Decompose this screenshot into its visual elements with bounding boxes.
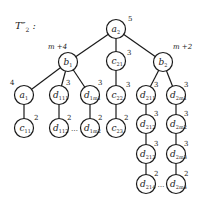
node-weight: 3: [184, 140, 188, 148]
title-main: T″: [15, 20, 26, 31]
node-weight: 2: [124, 114, 128, 122]
node-d1m2: d1m22: [81, 114, 103, 138]
node-d112: d1122: [50, 114, 72, 138]
node-d2m1: d2m13: [167, 81, 189, 105]
node-c22: c223: [107, 81, 131, 105]
node-label-subscript: 2m1: [176, 95, 187, 101]
node-weight: 3: [66, 79, 70, 87]
node-label-subscript: 213: [146, 154, 156, 160]
node-d214: d2142: [137, 170, 159, 194]
node-c23: c232: [107, 114, 129, 138]
ellipsis-dots: …: [158, 181, 165, 189]
node-label-subscript: 21: [117, 61, 123, 67]
node-weight: 3: [126, 81, 130, 89]
node-weight: 3: [184, 110, 188, 118]
node-d111: d1113: [50, 79, 71, 105]
node-label-subscript: 2: [117, 29, 120, 35]
node-label-subscript: 112: [59, 128, 69, 134]
node-label-subscript: 22: [117, 95, 123, 101]
node-label-subscript: 1: [69, 62, 72, 68]
node-weight: 2: [184, 170, 188, 178]
node-weight: 2: [34, 114, 38, 122]
node-weight: m +2: [173, 43, 193, 51]
node-label-subscript: 214: [146, 184, 156, 190]
node-label-subscript: 2m2: [176, 124, 187, 130]
node-label-subscript: 1: [25, 95, 28, 101]
title-suffix: :: [29, 20, 36, 31]
node-label-subscript: 23: [117, 128, 123, 134]
node-label-subscript: 2m4: [176, 184, 187, 190]
node-weight: 3: [184, 81, 188, 89]
node-weight: m +4: [48, 43, 67, 51]
node-d2m2: d2m23: [167, 110, 189, 134]
node-weight: 2: [67, 114, 71, 122]
nodes: a25b1m +4c213b2m +2a14d1113d1m13c223c112…: [10, 15, 193, 194]
diagram-title: T″2 :: [15, 20, 36, 33]
node-d211: d2113: [137, 81, 159, 105]
node-a1: a14: [10, 79, 34, 105]
node-d213: d2133: [137, 140, 159, 164]
node-weight: 5: [128, 15, 132, 23]
tree-diagram: T″2 : a25b1m +4c213b2m +2a14d1113d1m13c2…: [0, 0, 200, 205]
node-label-subscript: 111: [59, 95, 69, 101]
node-weight: 3: [154, 81, 158, 89]
node-weight: 2: [154, 170, 158, 178]
node-label-subscript: 212: [146, 124, 156, 130]
node-c11: c112: [15, 114, 39, 138]
node-label-subscript: 1m1: [90, 95, 101, 101]
node-label-subscript: 11: [25, 128, 31, 134]
node-d2m3: d2m33: [167, 140, 189, 164]
node-label-subscript: 1m2: [90, 128, 101, 134]
node-weight: 4: [10, 79, 15, 87]
node-weight: 3: [154, 140, 158, 148]
node-label-subscript: 211: [146, 95, 156, 101]
node-d1m1: d1m13: [81, 79, 103, 105]
node-weight: 3: [154, 110, 158, 118]
node-c21: c213: [107, 49, 132, 71]
node-d212: d2123: [137, 110, 159, 134]
ellipsis-dots: …: [71, 125, 78, 133]
node-b2: b2m +2: [154, 43, 193, 72]
node-weight: 3: [98, 79, 102, 87]
node-a2: a25: [107, 15, 133, 39]
node-label-subscript: 2m3: [176, 154, 187, 160]
node-b1: b1m +4: [48, 43, 78, 72]
node-label-subscript: 2: [164, 62, 167, 68]
node-weight: 3: [127, 49, 131, 57]
node-d2m4: d2m42: [167, 170, 189, 194]
node-weight: 2: [98, 114, 102, 122]
